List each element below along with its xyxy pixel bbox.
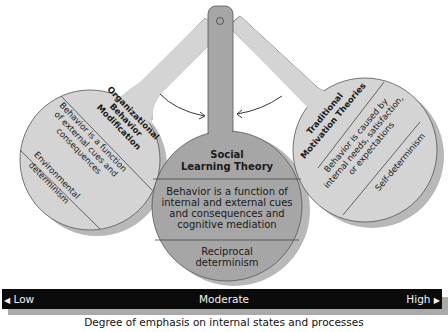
scale-moderate-label: Moderate xyxy=(199,293,249,305)
center-section1-line: and consequences and xyxy=(169,208,284,219)
center-section1-line: Behavior is a function of xyxy=(166,186,288,197)
scale-high-label: High xyxy=(406,293,430,305)
center-paddle xyxy=(152,6,302,281)
arrow-left-to-center xyxy=(160,94,204,116)
center-section2-line: determinism xyxy=(195,257,258,268)
center-section2-line: Reciprocal xyxy=(201,246,253,257)
center-title-line1: Social xyxy=(210,149,244,160)
center-section1-line: cognitive mediation xyxy=(177,219,276,230)
arrow-right-to-center xyxy=(237,96,282,114)
scale-moderate: Moderate xyxy=(0,292,448,306)
scale-high: High ▶ xyxy=(406,292,440,308)
right-arrow-icon: ▶ xyxy=(434,296,440,305)
diagram-canvas: Social Learning Theory Behavior is a fun… xyxy=(0,0,448,332)
center-section1-line: internal and external cues xyxy=(161,197,292,208)
center-title-line2: Learning Theory xyxy=(181,161,274,172)
scale-caption: Degree of emphasis on internal states an… xyxy=(0,316,448,328)
pivot-icon xyxy=(217,18,224,25)
